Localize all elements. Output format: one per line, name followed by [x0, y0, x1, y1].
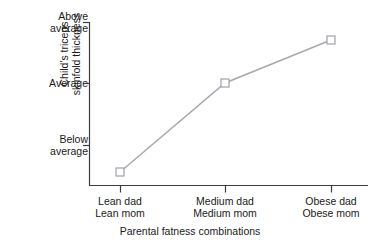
data-point-marker-lean	[116, 168, 124, 176]
x-tick-label-obese-line-1: Obese dad	[283, 195, 379, 207]
data-point-marker-medium	[221, 79, 229, 87]
x-tick-label-lean-line-2: Lean mom	[72, 207, 168, 219]
x-tick-label-obese-line-2: Obese mom	[283, 207, 379, 219]
x-tick-label-medium: Medium dad Medium mom	[177, 195, 273, 219]
x-tick-label-obese: Obese dad Obese mom	[283, 195, 379, 219]
x-tick-label-medium-line-1: Medium dad	[177, 195, 273, 207]
x-tick-label-lean: Lean dad Lean mom	[72, 195, 168, 219]
data-series-line	[120, 40, 331, 172]
x-tick-label-lean-line-1: Lean dad	[72, 195, 168, 207]
x-tick-label-medium-line-2: Medium mom	[177, 207, 273, 219]
data-point-marker-obese	[327, 36, 335, 44]
x-axis-title: Parental fatness combinations	[0, 225, 380, 237]
chart-figure: Child's triceps skinfold thickness Above…	[0, 0, 380, 243]
